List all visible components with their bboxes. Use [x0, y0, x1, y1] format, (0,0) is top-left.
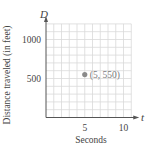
point-annotation: (5, 550): [90, 70, 120, 81]
y-tick-label: 500: [27, 74, 42, 84]
x-axis-label: Seconds: [75, 135, 107, 145]
chart: 5105001000 (5, 550) D t Seconds Distance…: [0, 0, 154, 150]
y-tick-label: 1000: [22, 35, 41, 45]
x-tick-label: 5: [82, 123, 87, 133]
x-axis-variable: t: [141, 111, 145, 123]
data-point: [82, 72, 87, 77]
y-axis-variable: D: [39, 8, 48, 20]
y-axis-label: Distance traveled (in feet): [2, 26, 13, 125]
x-axis-arrow-icon: [133, 116, 139, 120]
x-tick-label: 10: [119, 123, 129, 133]
data-points: (5, 550): [82, 70, 120, 81]
